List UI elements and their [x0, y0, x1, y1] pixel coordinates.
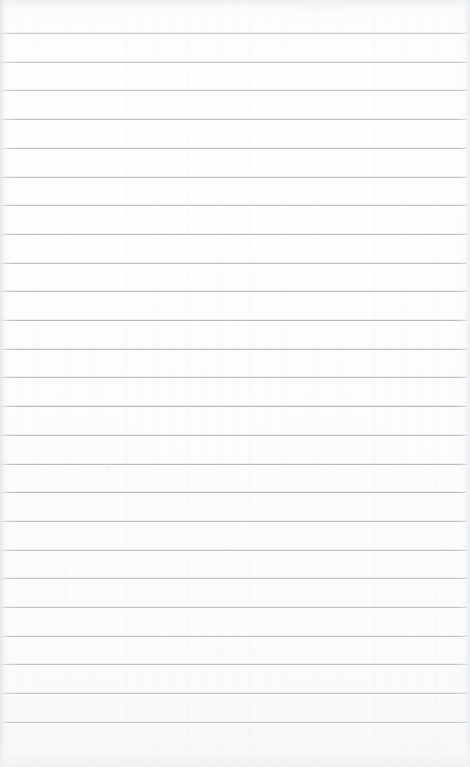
- notepad-page: [0, 0, 470, 767]
- writing-area[interactable]: [0, 0, 470, 767]
